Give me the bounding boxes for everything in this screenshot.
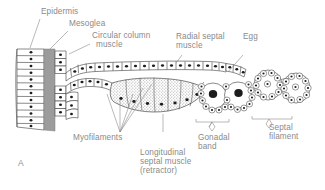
transition-epithelium-strip <box>226 64 246 78</box>
epidermis-cell-column <box>16 49 44 130</box>
anatomical-figure: Epidermis Mesoglea Circular column muscl… <box>0 0 325 190</box>
lower-septal-epithelium-row <box>66 78 112 94</box>
label-radial-septal-muscle-line2: muscle <box>176 41 203 51</box>
longitudinal-septal-muscle-region <box>110 78 206 112</box>
circular-column-muscle-cells <box>55 51 66 116</box>
label-gonadal-band-line2: band <box>198 142 217 152</box>
mesoglea-band <box>44 49 55 131</box>
label-epidermis: Epidermis <box>41 7 78 17</box>
label-egg: Egg <box>243 32 258 42</box>
left-lower-cell-cluster <box>66 92 78 120</box>
label-circular-column-muscle-line2: muscle <box>96 40 123 50</box>
label-longitudinal-septal-muscle-line3: (retractor) <box>140 166 177 176</box>
label-mesoglea: Mesoglea <box>69 19 105 29</box>
label-septal-filament-line2: filament <box>269 132 298 142</box>
label-myofilaments: Myofilaments <box>73 133 122 143</box>
panel-label-a: A <box>18 158 24 168</box>
septal-filament <box>253 70 311 103</box>
